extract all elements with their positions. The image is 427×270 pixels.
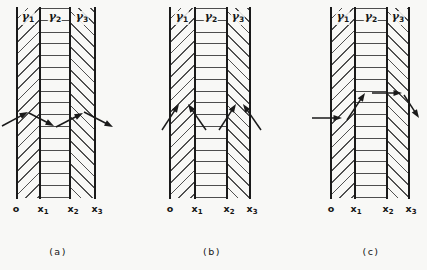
layer-strip-1 (170, 8, 195, 198)
boundary-line (226, 7, 228, 199)
arrow-head (104, 120, 113, 127)
panel-caption: (a) (49, 246, 67, 257)
layer-strip-2 (40, 8, 70, 198)
boundary-line (408, 7, 410, 199)
boundary-line (94, 7, 96, 199)
boundary-line (386, 7, 388, 199)
axis-label: x3 (246, 203, 257, 216)
gamma-label: γ1 (336, 11, 350, 25)
boundary-line (16, 7, 18, 199)
boundary-line (169, 7, 171, 199)
layer-strip-1 (17, 8, 40, 198)
layer-strip-3 (227, 8, 250, 198)
boundary-line (194, 7, 196, 199)
gamma-label: γ2 (48, 11, 62, 25)
boundary-line (249, 7, 251, 199)
layer-strip-2 (355, 8, 387, 198)
gamma-label: γ2 (204, 11, 218, 25)
boundary-line (39, 7, 41, 199)
layer-strip-3 (70, 8, 95, 198)
gamma-label: γ1 (175, 11, 189, 25)
gamma-label: γ3 (231, 11, 245, 25)
gamma-label: γ3 (75, 11, 89, 25)
axis-label: x2 (223, 203, 234, 216)
gamma-label: γ2 (364, 11, 378, 25)
axis-label: o (13, 203, 20, 216)
layer-strip-2 (195, 8, 227, 198)
axis-label: x2 (67, 203, 78, 216)
axis-label: x3 (405, 203, 416, 216)
axis-label: x2 (382, 203, 393, 216)
boundary-line (330, 7, 332, 199)
panel-caption: (c) (362, 246, 379, 257)
gamma-label: γ1 (21, 11, 35, 25)
layer-strip-1 (331, 8, 355, 198)
boundary-line (69, 7, 71, 199)
axis-label: x1 (350, 203, 361, 216)
figure: γ1 γ2 γ3 o x1 x2 x3 (a) γ1 γ2 γ3 o x1 x2… (0, 0, 427, 270)
axis-label: x1 (191, 203, 202, 216)
axis-label: x1 (37, 203, 48, 216)
arrow-head (412, 109, 419, 118)
boundary-line (354, 7, 356, 199)
gamma-label: γ3 (391, 11, 405, 25)
layer-strip-3 (387, 8, 409, 198)
axis-label: o (328, 203, 335, 216)
axis-label: o (167, 203, 174, 216)
axis-label: x3 (91, 203, 102, 216)
panel-caption: (b) (203, 246, 221, 257)
